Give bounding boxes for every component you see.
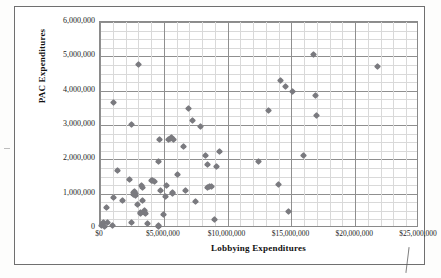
scatter-point <box>189 117 196 124</box>
scatter-point <box>202 152 209 159</box>
scatter-point <box>157 187 164 194</box>
x-tick-label: $15,000,000 <box>255 229 325 238</box>
scatter-point <box>160 211 167 218</box>
scatter-point <box>144 220 151 227</box>
y-tick-label: 6,000,000 <box>31 17 95 25</box>
x-tick-label: $25,000,000 <box>383 229 441 238</box>
scatter-point <box>216 148 223 155</box>
scatter-point <box>103 204 110 211</box>
scatter-points <box>100 22 417 226</box>
scatter-point <box>155 158 162 165</box>
scatter-point <box>174 171 181 178</box>
scatter-point <box>192 198 199 205</box>
scatter-point <box>374 63 381 70</box>
scatter-point <box>185 105 192 112</box>
x-axis-title: Lobbying Expenditures <box>99 243 418 253</box>
x-axis-ticks: $0$5,000,000$10,000,000$15,000,000$20,00… <box>99 229 418 243</box>
scatter-point <box>277 77 284 84</box>
scatter-point <box>274 181 281 188</box>
scatter-point <box>288 87 295 94</box>
y-tick-label: 3,000,000 <box>31 120 95 128</box>
scatter-point <box>180 143 187 150</box>
scatter-point <box>312 92 319 99</box>
scan-edge-mark <box>4 148 10 149</box>
x-tick-label: $0 <box>64 229 134 238</box>
scatter-point <box>313 112 320 119</box>
chart-page: PAC Expenditures 01,000,0002,000,0003,00… <box>0 0 441 278</box>
scatter-point <box>163 182 170 189</box>
scatter-point <box>285 208 292 215</box>
scatter-point <box>204 161 211 168</box>
y-axis-ticks: 01,000,0002,000,0003,000,0004,000,0005,0… <box>27 21 95 227</box>
scatter-point <box>156 136 163 143</box>
scatter-point <box>126 176 133 183</box>
scatter-point <box>182 187 189 194</box>
y-tick-label: 1,000,000 <box>31 189 95 197</box>
scatter-point <box>197 123 204 130</box>
scatter-point <box>255 158 262 165</box>
x-tick-label: $5,000,000 <box>128 229 198 238</box>
scatter-point <box>114 167 121 174</box>
scatter-point <box>119 197 126 204</box>
scatter-point <box>211 216 218 223</box>
plot-area <box>99 21 418 227</box>
scatter-point <box>213 163 220 170</box>
scatter-point <box>300 152 307 159</box>
x-tick-label: $10,000,000 <box>192 229 262 238</box>
scatter-point <box>265 107 272 114</box>
x-tick-label: $20,000,000 <box>319 229 389 238</box>
chart-outer-frame: PAC Expenditures 01,000,0002,000,0003,00… <box>14 6 425 265</box>
scatter-point <box>110 99 117 106</box>
scatter-point <box>128 121 135 128</box>
y-tick-label: 4,000,000 <box>31 86 95 94</box>
scatter-point <box>135 61 142 68</box>
scatter-point <box>128 219 135 226</box>
scatter-point <box>151 178 158 185</box>
y-tick-label: 2,000,000 <box>31 154 95 162</box>
y-tick-label: 5,000,000 <box>31 51 95 59</box>
scatter-point <box>142 210 149 217</box>
scatter-point <box>282 83 289 90</box>
scatter-point <box>310 51 317 58</box>
scatter-point <box>162 193 169 200</box>
scatter-point <box>110 194 117 201</box>
